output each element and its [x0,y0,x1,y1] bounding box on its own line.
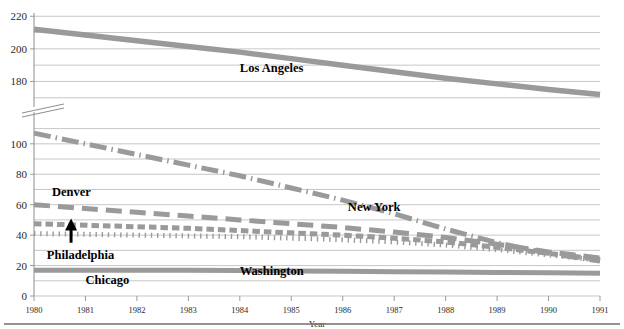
x-tick-label-1982: 1982 [128,305,145,315]
axis-break-mark-upper [22,104,64,113]
series-label-los-angeles: Los Angeles [240,61,304,75]
series-label-denver: Denver [52,185,91,199]
series-label-philadelphia: Philadelphia [47,248,115,262]
y-tick-label-40: 40 [16,229,28,241]
y-tick-label-180: 180 [11,75,28,87]
y-tick-label-60: 60 [16,199,28,211]
y-tick-label-100: 100 [11,138,28,150]
series-label-new-york: New York [348,200,401,214]
series-line-new-york [34,133,600,261]
series-label-chicago: Chicago [85,273,129,287]
y-tick-label-0: 0 [22,290,28,302]
x-tick-label-1991: 1991 [592,305,609,315]
x-tick-label-1987: 1987 [386,305,403,315]
x-tick-label-1988: 1988 [437,305,454,315]
series-label-washington: Washington [240,264,304,278]
x-tick-label-1981: 1981 [77,305,94,315]
y-tick-label-200: 200 [11,43,28,55]
x-tick-label-1989: 1989 [489,305,506,315]
x-tick-label-1985: 1985 [283,305,300,315]
x-tick-label-1990: 1990 [540,305,557,315]
x-tick-label-1984: 1984 [231,305,249,315]
chart-container: 1802002200204060801001980198119821983198… [0,0,624,329]
x-tick-label-1983: 1983 [180,305,197,315]
line-chart: 1802002200204060801001980198119821983198… [0,0,624,329]
y-tick-label-220: 220 [11,10,28,22]
series-line-los-angeles [34,29,600,94]
axis-break-mark-lower [22,108,64,117]
y-tick-label-20: 20 [16,260,28,272]
x-tick-label-1986: 1986 [334,305,351,315]
series-line-washington [34,224,600,260]
up-arrow-annotation [65,218,77,242]
y-tick-label-80: 80 [16,168,28,180]
x-tick-label-1980: 1980 [26,305,43,315]
